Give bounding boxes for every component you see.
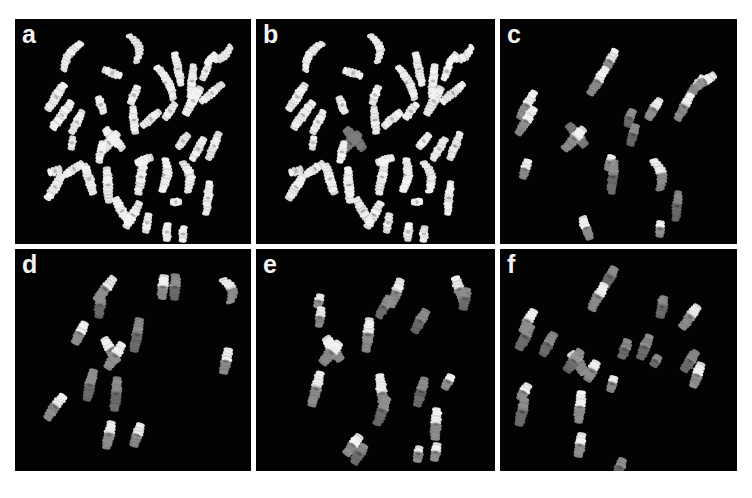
panel-a-canvas [15,19,251,244]
panel-d-canvas [15,249,251,471]
panel-e-canvas [256,249,495,471]
panel-label-b: b [263,21,278,47]
panel-label-d: d [22,251,37,277]
panel-label-f: f [507,251,515,277]
panel-b-canvas [256,19,495,244]
panel-c[interactable]: c [500,19,737,244]
figure-root: a b c d e f [0,0,752,498]
panel-e[interactable]: e [256,249,495,471]
panel-label-a: a [22,21,36,47]
panel-b[interactable]: b [256,19,495,244]
panel-label-c: c [507,21,521,47]
panel-c-canvas [500,19,737,244]
panel-a[interactable]: a [15,19,251,244]
panel-grid: a b c d e f [15,19,737,476]
panel-f[interactable]: f [500,249,737,471]
panel-d[interactable]: d [15,249,251,471]
panel-label-e: e [263,251,277,277]
panel-f-canvas [500,249,737,471]
